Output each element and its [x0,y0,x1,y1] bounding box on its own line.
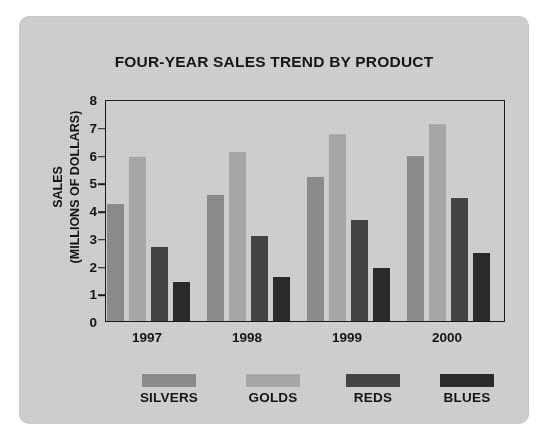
chart-card: FOUR-YEAR SALES TREND BY PRODUCT SALES (… [19,16,529,424]
bar [207,195,224,321]
y-axis-tick-mark [98,267,106,269]
chart-legend: SILVERSGOLDSREDSBLUES [105,374,515,418]
bar [307,177,324,321]
legend-item[interactable]: SILVERS [114,374,224,405]
x-axis-label: 2000 [432,330,462,345]
y-axis-title-line2: (MILLIONS OF DOLLARS) [67,92,84,282]
bar [429,124,446,321]
legend-label: SILVERS [114,390,224,405]
bar [329,134,346,321]
y-axis-tick-label: 8 [89,94,106,108]
legend-swatch [142,374,196,387]
bar [451,198,468,321]
chart-title: FOUR-YEAR SALES TREND BY PRODUCT [19,53,529,71]
bar [229,152,246,321]
y-axis-tick-mark [98,294,106,296]
bar-group [307,101,390,321]
y-axis-title: SALES (MILLIONS OF DOLLARS) [50,92,90,282]
bar [407,156,424,321]
legend-swatch [440,374,494,387]
bars-layer [106,101,504,321]
bar [373,268,390,321]
bar [251,236,268,321]
legend-item[interactable]: BLUES [412,374,522,405]
bar [107,204,124,321]
bar-group [107,101,190,321]
bar-group [407,101,490,321]
y-axis-tick-mark [98,183,106,185]
plot-area: 012345678 [105,100,505,322]
bar [173,282,190,321]
bar [273,277,290,321]
bar [129,157,146,321]
x-axis-label: 1998 [232,330,262,345]
bar [151,247,168,321]
legend-label: GOLDS [218,390,328,405]
legend-label: BLUES [412,390,522,405]
y-axis-tick-mark [98,156,106,158]
bar-group [207,101,290,321]
chart-screenshot: FOUR-YEAR SALES TREND BY PRODUCT SALES (… [0,0,548,444]
y-axis-title-line1: SALES [50,92,67,282]
x-axis-label: 1999 [332,330,362,345]
y-axis-tick-mark [98,128,106,130]
legend-swatch [246,374,300,387]
legend-item[interactable]: GOLDS [218,374,328,405]
x-axis-label: 1997 [132,330,162,345]
y-axis-tick-mark [98,239,106,241]
y-axis-tick-label: 0 [89,316,106,330]
bar [351,220,368,321]
bar [473,253,490,321]
legend-swatch [346,374,400,387]
y-axis-tick-mark [98,211,106,213]
x-axis-labels: 1997199819992000 [105,330,505,352]
